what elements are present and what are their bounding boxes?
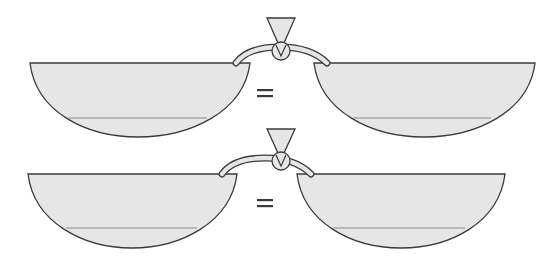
row-bottom <box>28 129 505 248</box>
row-top <box>30 18 535 137</box>
equals-sign-top <box>257 89 273 97</box>
right-bowl-bottom <box>297 174 505 248</box>
right-bowl-top <box>314 63 535 137</box>
left-bowl-bottom <box>28 174 237 248</box>
equals-sign-bottom <box>257 199 273 207</box>
diagram-svg <box>0 0 553 264</box>
funnel-icon-bottom <box>267 129 295 153</box>
left-bowl-top <box>30 63 250 137</box>
diagram-canvas: = = <box>0 0 553 264</box>
funnel-icon-top <box>267 18 295 43</box>
